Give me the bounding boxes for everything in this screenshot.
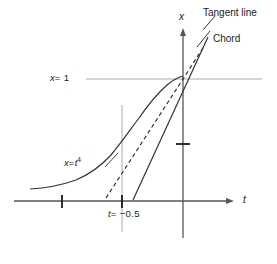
x-equals-one-value: = 1 <box>55 72 70 83</box>
curve-x-equals-t-fourth <box>30 76 183 189</box>
x-axis-label: t <box>243 195 246 205</box>
tangent-line <box>133 37 208 200</box>
figure-container: x t Tangent line Chord x= 1 x=t4 t= −0.5 <box>0 0 277 264</box>
tangent-line-leader <box>203 16 215 30</box>
tangent-line-label: Tangent line <box>203 8 257 18</box>
t-axis-arrowhead <box>226 198 234 204</box>
chord-line <box>106 48 203 198</box>
t-value-number: = −0.5 <box>111 208 140 219</box>
y-axis-label: x <box>179 12 184 22</box>
curve-equation-label: x=t4 <box>64 158 81 168</box>
curve-exponent: 4 <box>77 156 81 163</box>
x-axis-arrowhead <box>180 28 186 36</box>
t-value-label: t= −0.5 <box>108 209 140 219</box>
chord-leader <box>197 31 210 47</box>
chord-label: Chord <box>213 34 240 44</box>
x-equals-one-label: x= 1 <box>50 73 69 83</box>
